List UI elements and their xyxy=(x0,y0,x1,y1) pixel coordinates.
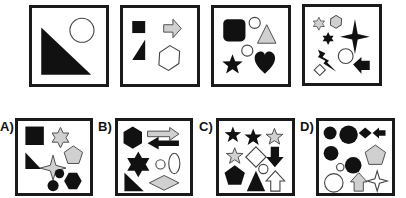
sequence-panel-3 xyxy=(211,5,291,87)
square-icon xyxy=(132,21,145,33)
arrow-right-icon xyxy=(164,19,182,38)
hexagon-icon xyxy=(154,43,184,73)
arrow-left-icon xyxy=(353,57,370,74)
option-panel-b[interactable] xyxy=(115,118,193,196)
circle-icon xyxy=(55,169,64,178)
panel-3-shapes xyxy=(214,8,288,84)
option-label-c: C) xyxy=(199,120,213,133)
four-point-star-icon xyxy=(367,171,387,191)
six-point-star-icon xyxy=(323,32,334,45)
circle-icon xyxy=(339,126,357,144)
diamond-icon xyxy=(149,175,179,190)
circle-icon xyxy=(345,157,362,174)
option-label-b: B) xyxy=(98,120,112,133)
panel-4-shapes xyxy=(305,7,379,83)
pentagon-icon xyxy=(64,146,82,164)
star-icon xyxy=(266,128,283,144)
option-panel-c[interactable] xyxy=(216,118,295,196)
heart-icon xyxy=(255,52,275,74)
pentagon-icon xyxy=(225,165,245,184)
pentagon-icon xyxy=(365,145,385,164)
diamond-icon xyxy=(314,64,325,75)
option-b-shapes xyxy=(118,121,190,193)
option-d-shapes xyxy=(319,121,392,193)
sequence-panel-2 xyxy=(120,5,200,87)
option-c-shapes xyxy=(219,121,292,193)
circle-icon xyxy=(259,164,268,173)
circle-icon xyxy=(337,163,344,170)
triangle-icon xyxy=(124,173,143,191)
circle-icon xyxy=(324,127,337,140)
option-panel-a[interactable] xyxy=(15,118,93,196)
circle-icon xyxy=(249,17,260,28)
star-icon xyxy=(225,127,242,143)
star-icon xyxy=(226,148,243,164)
circle-icon xyxy=(324,146,339,161)
option-panel-d[interactable] xyxy=(316,118,395,196)
sequence-panel-4 xyxy=(302,4,382,86)
sequence-panel-1 xyxy=(29,5,109,87)
circle-icon xyxy=(325,174,343,192)
circle-icon xyxy=(156,160,165,169)
triangle-icon xyxy=(25,152,41,169)
circle-icon xyxy=(338,49,353,64)
six-point-star-icon xyxy=(52,127,69,147)
rounded-square-icon xyxy=(223,19,245,41)
arrow-up-icon xyxy=(350,173,367,191)
panel-2-shapes xyxy=(123,8,197,84)
arrow-left-icon xyxy=(148,137,179,150)
circle-icon xyxy=(70,18,94,42)
ellipse-icon xyxy=(169,153,180,173)
six-point-star-icon xyxy=(313,17,324,30)
diamond-icon xyxy=(359,127,372,138)
arrow-right-icon xyxy=(148,127,179,140)
panel-1-shapes xyxy=(32,8,106,84)
square-icon xyxy=(25,127,43,145)
option-label-a: A) xyxy=(0,120,14,133)
option-a-shapes xyxy=(18,121,90,193)
hexagon-icon xyxy=(64,173,82,190)
hexagon-icon xyxy=(328,14,344,30)
arrow-left-icon xyxy=(373,127,386,138)
six-point-star-icon xyxy=(127,151,149,177)
star-icon xyxy=(222,54,242,73)
option-label-d: D) xyxy=(300,120,314,133)
star-icon xyxy=(244,128,262,145)
trapezoid-icon xyxy=(132,40,145,60)
arrow-up-icon xyxy=(266,171,284,191)
arrow-down-icon xyxy=(266,147,284,167)
circle-icon xyxy=(48,180,59,191)
hexagon-icon xyxy=(124,127,142,149)
circle-icon xyxy=(242,45,253,56)
triangle-icon xyxy=(257,25,276,43)
